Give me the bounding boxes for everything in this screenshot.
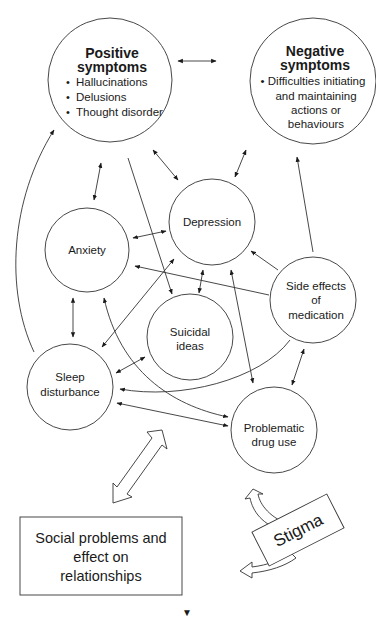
diagram-canvas: Stigma Positive symptoms • Hallucination… — [0, 0, 376, 625]
edge-sideeffects-anxiety — [135, 266, 269, 295]
edge-sideeffects-druguse — [292, 349, 304, 385]
edge-druguse-depression — [231, 270, 253, 383]
anxiety-label: Anxiety — [68, 244, 106, 256]
edge-positive-anxiety — [94, 163, 101, 200]
edge-anxiety-depression — [133, 231, 166, 238]
edge-positive-depression — [153, 150, 178, 180]
negative-line-4: behaviours — [288, 118, 345, 130]
positive-title-2: symptoms — [77, 59, 147, 75]
edge-sideeffects-negative — [297, 157, 313, 252]
edge-sleep-druguse — [117, 403, 228, 426]
suicidal-line-2: ideas — [176, 340, 204, 352]
negative-line-1: • Difficulties initiating — [261, 75, 366, 87]
edge-positive-suicidal — [128, 158, 172, 294]
edge-negative-depression — [235, 150, 246, 177]
positive-bullet-3: Thought disorder — [76, 106, 163, 118]
side-effects-line-1: Side effects — [286, 280, 346, 292]
side-effects-line-3: medication — [288, 309, 344, 321]
side-effects-line-2: of — [311, 294, 321, 306]
suicidal-line-1: Suicidal — [170, 326, 210, 338]
positive-bullet-dot-2: • — [66, 91, 70, 103]
positive-bullet-dot-1: • — [66, 76, 70, 88]
page-marker-icon: ▼ — [182, 607, 192, 618]
sleep-line-1: Sleep — [55, 371, 84, 383]
edge-sideeffects-depression — [251, 251, 278, 270]
social-line-1: Social problems and — [35, 530, 166, 546]
positive-bullet-2: Delusions — [76, 91, 127, 103]
drug-use-line-2: drug use — [252, 436, 297, 448]
depression-label: Depression — [183, 216, 241, 228]
positive-bullet-dot-3: • — [66, 106, 70, 118]
positive-bullet-1: Hallucinations — [76, 76, 148, 88]
negative-title-2: symptoms — [280, 57, 350, 73]
negative-line-3: actions or — [291, 104, 341, 116]
sleep-line-2: disturbance — [40, 386, 99, 398]
negative-line-2: and maintaining — [275, 90, 356, 102]
edge-depression-suicidal — [199, 270, 203, 293]
social-line-2: effect on — [73, 549, 128, 565]
block-arrow-social — [113, 430, 167, 503]
drug-use-line-1: Problematic — [244, 422, 305, 434]
social-line-3: relationships — [60, 568, 141, 584]
